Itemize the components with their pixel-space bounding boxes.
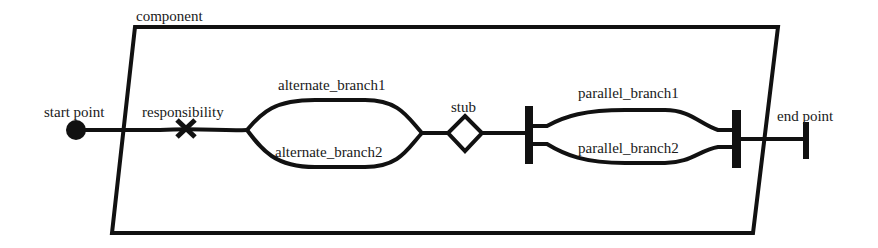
stub-label: stub	[451, 99, 476, 115]
use-case-map-diagram: component start point responsibility alt…	[0, 0, 878, 248]
and-fork-bar-icon	[525, 106, 533, 164]
parallel-branch1-label: parallel_branch1	[578, 85, 679, 101]
parallel-branch2-label: parallel_branch2	[578, 140, 679, 156]
responsibility-label: responsibility	[142, 104, 224, 120]
component-label: component	[136, 8, 203, 24]
stub-diamond-icon	[448, 116, 482, 151]
start-point-label: start point	[44, 104, 105, 120]
parallel-branch1-path	[533, 110, 736, 130]
end-point-bar-icon	[803, 122, 809, 159]
alternate-branch1-label: alternate_branch1	[278, 77, 385, 93]
and-join-bar-icon	[732, 110, 741, 168]
path-segment-start	[76, 129, 247, 130]
alternate-branch2-label: alternate_branch2	[275, 144, 382, 160]
alternate-branch1-path	[247, 100, 422, 133]
end-point-label: end point	[777, 108, 834, 124]
